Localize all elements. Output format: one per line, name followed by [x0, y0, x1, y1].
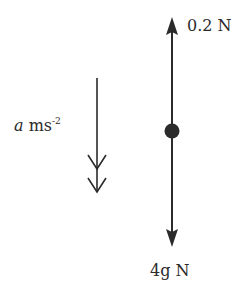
upward-force-label: 0.2 N — [187, 18, 232, 34]
weight-unit: N — [176, 261, 190, 280]
force-diagram-canvas — [0, 0, 250, 296]
particle-dot — [165, 124, 180, 139]
acceleration-unit-exponent: -2 — [52, 116, 61, 126]
force-diagram: 0.2 N 4g N a ms-2 — [0, 0, 250, 296]
weight-value: 4g — [150, 261, 170, 280]
acceleration-label: a ms-2 — [14, 117, 61, 134]
weight-label: 4g N — [150, 263, 190, 279]
acceleration-symbol: a — [14, 116, 24, 135]
acceleration-unit: ms — [29, 116, 52, 135]
upward-force-value: 0.2 N — [187, 16, 232, 35]
